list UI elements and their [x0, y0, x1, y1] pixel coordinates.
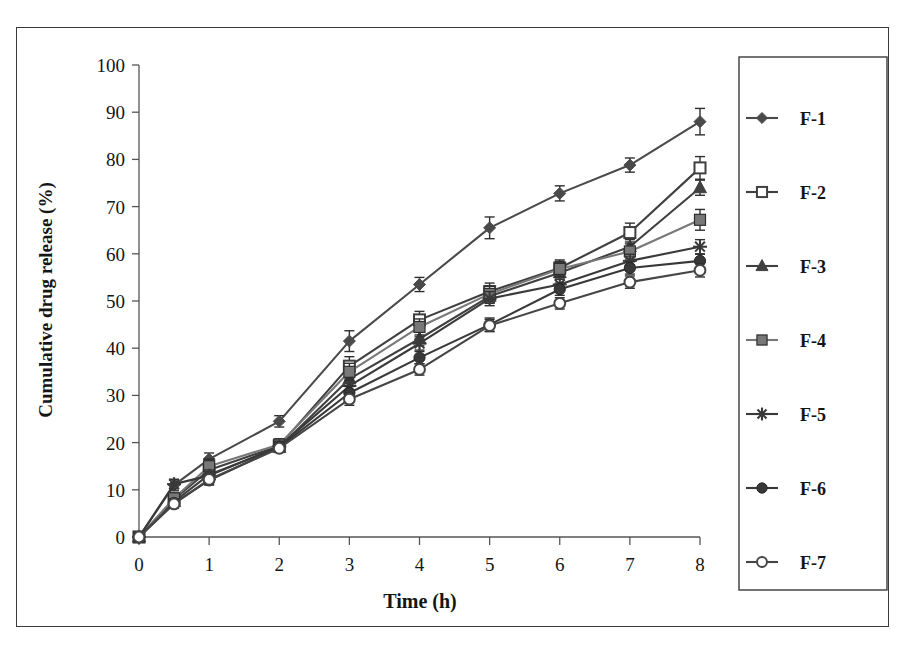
legend-marker-star-asterisk-icon: [756, 408, 769, 421]
y-axis: [132, 65, 139, 537]
data-point: [695, 265, 706, 276]
x-axis-label: Time (h): [383, 590, 457, 613]
legend-label: F-7: [800, 553, 826, 573]
data-series-group: [132, 108, 707, 544]
data-point: [554, 263, 565, 274]
y-tick-label: 0: [116, 527, 126, 548]
figure-root: Cumulative drug release (%) Time (h) 010…: [0, 0, 909, 655]
data-point: [624, 227, 635, 238]
data-point: [169, 499, 180, 510]
data-point: [483, 292, 497, 306]
x-axis: [139, 537, 700, 545]
legend-border: [739, 57, 887, 590]
legend-label: F-5: [800, 405, 826, 425]
data-point: [694, 181, 707, 193]
y-tick-label: 60: [106, 244, 125, 265]
y-tick-label: 90: [106, 102, 125, 123]
legend-marker-filled-square-icon: [757, 335, 767, 345]
data-point: [413, 336, 427, 350]
data-point: [554, 298, 565, 309]
legend-label: F-1: [800, 109, 826, 129]
x-tick-label: 8: [695, 554, 705, 575]
x-tick-label: 1: [204, 554, 214, 575]
data-point: [414, 352, 425, 363]
data-point: [694, 116, 706, 128]
y-tick-label: 10: [106, 480, 125, 501]
data-point: [624, 159, 636, 171]
plot-area-wrapper: Cumulative drug release (%) Time (h) 010…: [0, 0, 909, 655]
data-point: [167, 477, 181, 491]
line-chart: Cumulative drug release (%) Time (h) 010…: [0, 0, 909, 655]
y-tick-label: 30: [106, 385, 125, 406]
data-point: [274, 443, 285, 454]
data-point: [624, 277, 635, 288]
x-tick-label: 3: [345, 554, 355, 575]
data-point: [344, 366, 355, 377]
y-tick-label: 70: [106, 197, 125, 218]
x-tick-label: 7: [625, 554, 635, 575]
x-tick-label: 4: [415, 554, 425, 575]
legend-marker-filled-circle-icon: [757, 483, 767, 493]
series-f-4: [134, 209, 706, 542]
data-point: [695, 162, 706, 173]
series-f-6: [133, 254, 705, 542]
y-tick-label: 80: [106, 149, 125, 170]
y-tick-label: 20: [106, 433, 125, 454]
data-point: [414, 364, 425, 375]
y-tick-label: 40: [106, 338, 125, 359]
legend-label: F-4: [800, 331, 826, 351]
data-point: [204, 474, 215, 485]
y-tick-label: 100: [97, 55, 126, 76]
y-axis-label: Cumulative drug release (%): [35, 182, 57, 418]
data-point: [554, 284, 565, 295]
data-point: [414, 321, 425, 332]
legend-label: F-3: [800, 257, 826, 277]
x-tick-labels: 012345678: [134, 554, 705, 575]
data-point: [695, 214, 706, 225]
x-tick-label: 0: [134, 554, 144, 575]
legend-marker-open-square-icon: [757, 187, 767, 197]
legend-label: F-6: [800, 479, 826, 499]
legend-label: F-2: [800, 183, 826, 203]
x-tick-label: 6: [555, 554, 565, 575]
data-point: [554, 187, 566, 199]
data-point: [484, 320, 495, 331]
data-point: [624, 262, 635, 273]
data-point: [344, 394, 355, 405]
y-tick-label: 50: [106, 291, 125, 312]
x-tick-label: 2: [275, 554, 285, 575]
y-tick-labels: 0102030405060708090100: [97, 55, 126, 548]
data-point: [693, 240, 707, 254]
series-f-7: [134, 264, 706, 543]
legend-marker-open-circle-icon: [757, 557, 767, 567]
x-tick-label: 5: [485, 554, 495, 575]
data-point: [134, 532, 145, 543]
